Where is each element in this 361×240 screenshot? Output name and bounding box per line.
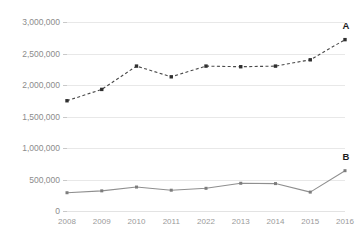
- data-point-a-2010: [135, 64, 138, 67]
- x-axis-label: 2008: [58, 217, 76, 226]
- y-axis-label: 1,000,000: [22, 143, 60, 153]
- y-axis-label: 3,000,000: [22, 17, 60, 27]
- series-lines-group: [67, 40, 345, 193]
- data-point-b-2011: [170, 189, 173, 192]
- data-point-a-2022: [204, 64, 207, 67]
- series-label-a: A: [343, 20, 350, 31]
- y-axis-label: 500,000: [29, 175, 60, 185]
- x-axis-label: 2010: [128, 217, 146, 226]
- data-point-b-2010: [135, 186, 138, 189]
- x-axis-label: 2011: [163, 217, 181, 226]
- y-axis-label: 2,000,000: [22, 80, 60, 90]
- series-label-b: B: [343, 151, 350, 162]
- chart-canvas: 0500,0001,000,0001,500,0002,000,0002,500…: [0, 0, 361, 240]
- y-axis-ticks-group: [63, 23, 67, 212]
- data-point-a-2015: [309, 58, 312, 61]
- y-axis-label: 1,500,000: [22, 112, 60, 122]
- data-point-b-2016: [344, 169, 347, 172]
- x-axis-label: 2014: [267, 217, 285, 226]
- series-labels-group: AB: [343, 20, 350, 162]
- x-axis-labels-group: 200820092010201120222013201420152016: [58, 217, 354, 226]
- data-point-a-2013: [239, 65, 242, 68]
- data-point-b-2013: [239, 182, 242, 185]
- data-point-a-2009: [100, 88, 103, 91]
- data-point-b-2014: [274, 182, 277, 185]
- x-axis-label: 2015: [301, 217, 319, 226]
- data-point-a-2008: [65, 99, 68, 102]
- x-axis-label: 2009: [93, 217, 111, 226]
- data-point-b-2009: [100, 189, 103, 192]
- x-axis-label: 2022: [197, 217, 215, 226]
- gridlines-group: [67, 23, 345, 212]
- data-point-b-2015: [309, 191, 312, 194]
- x-axis-label: 2013: [232, 217, 250, 226]
- series-line-a: [67, 40, 345, 101]
- y-axis-label: 0: [55, 206, 60, 216]
- data-point-b-2008: [66, 191, 69, 194]
- x-axis-label: 2016: [336, 217, 354, 226]
- data-point-a-2016: [343, 38, 346, 41]
- data-point-a-2014: [274, 64, 277, 67]
- data-point-b-2022: [205, 187, 208, 190]
- y-axis-label: 2,500,000: [22, 49, 60, 59]
- y-axis-labels-group: 0500,0001,000,0001,500,0002,000,0002,500…: [22, 17, 60, 216]
- line-chart: 0500,0001,000,0001,500,0002,000,0002,500…: [0, 0, 361, 240]
- data-point-a-2011: [170, 75, 173, 78]
